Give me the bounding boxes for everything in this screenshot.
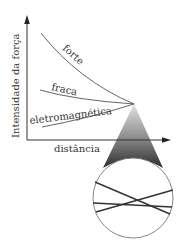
- x-axis-label: distância: [54, 143, 100, 154]
- label-fraca: fraca: [51, 81, 79, 97]
- y-axis-label: Intensidade da força: [10, 33, 21, 138]
- y-axis-arrow-icon: [24, 15, 30, 24]
- magnified-view: [93, 158, 173, 238]
- label-forte: forte: [61, 42, 87, 67]
- x-axis-arrow-icon: [162, 137, 171, 143]
- force-intensity-diagram: forte fraca eletromagnética Intensidade …: [0, 0, 183, 252]
- label-eletromagnetica: eletromagnética: [29, 105, 113, 126]
